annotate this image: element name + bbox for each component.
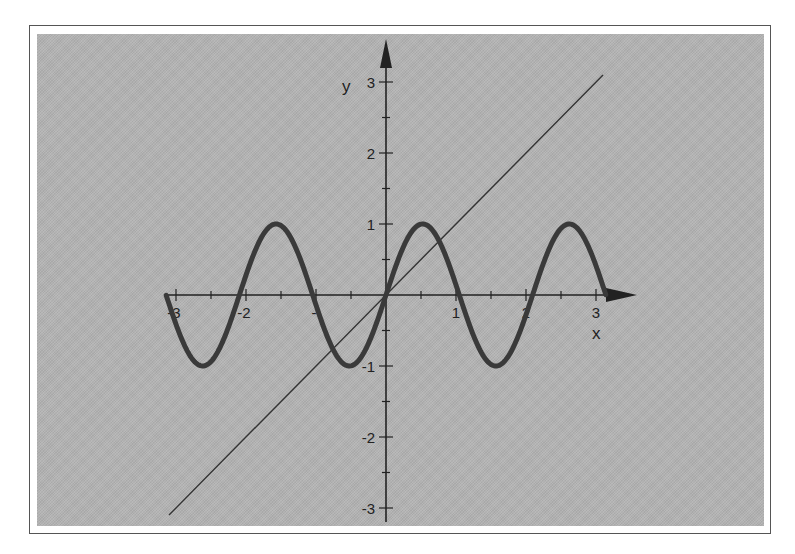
chart: -3-2-123-3-2-1123 x y <box>0 0 795 554</box>
x-axis-arrow-icon <box>606 288 637 302</box>
y-tick-label: 3 <box>367 74 375 91</box>
y-axis-arrow-icon <box>380 39 392 68</box>
y-tick-label: -2 <box>362 429 375 446</box>
y-tick-label: 1 <box>367 216 375 233</box>
y-tick-label: -3 <box>362 500 375 517</box>
x-axis-label: x <box>592 324 601 343</box>
x-tick-label: 1 <box>452 304 460 321</box>
y-axis-label: y <box>342 77 351 96</box>
y-tick-label: -1 <box>362 358 375 375</box>
x-tick-label: 3 <box>592 304 600 321</box>
x-tick-label: -2 <box>237 304 250 321</box>
y-tick-label: 2 <box>367 145 375 162</box>
